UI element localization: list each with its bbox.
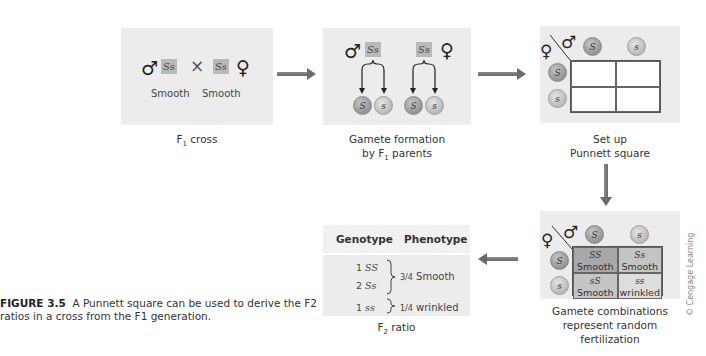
male-gamete-dominant: S <box>585 225 604 244</box>
female-symbol-icon: ♀ <box>440 40 454 60</box>
f2-ratio-label: F2 ratio <box>323 320 470 339</box>
male-symbol-icon: ♂ <box>561 32 576 52</box>
copyright-credit: © Cengage Learning <box>686 233 695 316</box>
cross-symbol-icon: × <box>190 56 204 76</box>
phenotype-smooth: 3/4 Smooth <box>400 271 455 282</box>
gamete-dominant: S <box>353 96 372 115</box>
filled-punnett-grid: SSSmooth SsSmooth sSSmooth sswrinkled <box>572 246 663 296</box>
female-genotype-box: Ss <box>416 42 432 57</box>
cell-Ss: SsSmooth <box>618 247 663 273</box>
female-gamete-dominant: S <box>550 251 569 270</box>
segregation-arrows-icon <box>355 58 455 96</box>
male-symbol-icon: ♂ <box>563 222 578 242</box>
female-symbol-icon: ♀ <box>236 57 250 77</box>
figure-number: FIGURE 3.5 <box>0 297 66 309</box>
f1-cross-label: F1 cross <box>121 132 273 151</box>
phenotype-header: Phenotype <box>404 233 467 245</box>
male-gamete-dominant: S <box>583 37 602 56</box>
grid-cell <box>616 61 661 87</box>
genotype-row: 1 SS <box>356 262 378 273</box>
arrow-right-icon <box>277 72 308 76</box>
male-phenotype: Smooth <box>151 88 190 99</box>
genotype-row: 1 ss <box>356 302 375 313</box>
brace-icon <box>385 259 397 295</box>
figure-caption: FIGURE 3.5 A Punnett square can be used … <box>0 297 330 323</box>
female-gamete-dominant: S <box>548 63 567 82</box>
female-phenotype: Smooth <box>202 88 241 99</box>
brace-icon <box>385 298 397 314</box>
grid-cell <box>571 87 616 113</box>
female-gamete-recessive: s <box>550 276 569 295</box>
gamete-formation-label: Gamete formation by F1 parents <box>323 132 471 165</box>
genotype-row: 2 Ss <box>356 280 376 291</box>
male-genotype-box: Ss <box>161 59 177 74</box>
male-genotype-box: Ss <box>365 42 381 57</box>
arrow-down-icon <box>604 164 608 198</box>
genotype-header: Genotype <box>336 233 393 245</box>
empty-punnett-grid <box>570 60 661 113</box>
arrow-left-icon <box>486 257 518 261</box>
gamete-recessive: s <box>425 96 444 115</box>
phenotype-wrinkled: 1/4 wrinkled <box>400 302 459 313</box>
cell-sS: sSSmooth <box>573 273 618 299</box>
gamete-dominant: S <box>404 96 423 115</box>
male-gamete-recessive: s <box>630 225 649 244</box>
cell-ss: sswrinkled <box>618 273 663 299</box>
punnett-setup-label: Set up Punnett square <box>540 132 680 160</box>
grid-cell <box>571 61 616 87</box>
female-symbol-icon: ♀ <box>540 41 552 61</box>
female-symbol-icon: ♀ <box>541 230 553 250</box>
male-gamete-recessive: s <box>627 37 646 56</box>
gamete-combinations-label: Gamete combinations represent random fer… <box>533 304 687 346</box>
female-genotype-box: Ss <box>213 59 229 74</box>
female-gamete-recessive: s <box>548 89 567 108</box>
grid-cell <box>616 87 661 113</box>
arrow-right-icon <box>478 72 518 76</box>
gamete-recessive: s <box>374 96 393 115</box>
cell-SS: SSSmooth <box>573 247 618 273</box>
male-symbol-icon: ♂ <box>141 58 158 78</box>
